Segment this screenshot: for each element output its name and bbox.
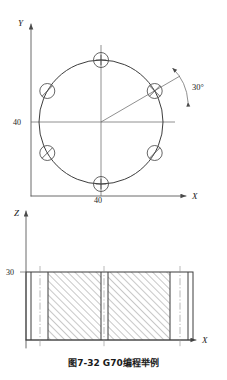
hatch-band-right [108,272,170,340]
hole-upper-right [147,84,162,99]
figure-caption: 图7-32 G70编程举例 [68,357,159,368]
technical-drawing-figure: Y X [0,0,227,380]
figure-canvas: Y X [0,0,227,380]
hole-upper-left [40,84,55,99]
x-axis-label-top: X [191,191,198,201]
angle-dimension-30 [173,68,189,102]
x-axis-label-bottom: X [201,335,208,345]
y-axis-label: Y [18,18,24,28]
dimension-left-40: 40 [13,118,21,127]
hole-lower-left [40,146,55,161]
angle-label-30: 30° [192,82,204,92]
hatch-band-left [48,272,101,340]
dimension-bottom-40: 40 [94,196,102,205]
hole-lower-right [147,146,162,161]
bottom-view-group: Z X 30 [6,208,208,348]
z-axis-label: Z [14,208,20,218]
radial-line-30deg [101,76,180,122]
dimension-height-30: 30 [6,268,14,277]
top-view-group: Y X [13,18,204,205]
hole-top [94,53,109,68]
hole-bottom [94,177,109,192]
